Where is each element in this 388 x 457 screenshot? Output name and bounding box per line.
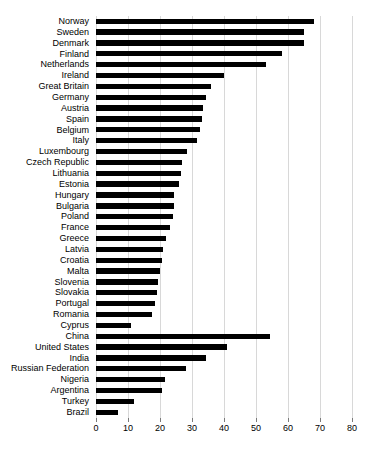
category-label-row: Poland bbox=[0, 211, 93, 222]
category-label-row: Slovakia bbox=[0, 287, 93, 298]
category-label-row: Cyprus bbox=[0, 320, 93, 331]
category-label-row: Italy bbox=[0, 135, 93, 146]
category-label-row: Romania bbox=[0, 309, 93, 320]
bar bbox=[96, 225, 170, 230]
x-tick-label: 40 bbox=[219, 423, 229, 433]
category-label: Finland bbox=[59, 49, 89, 60]
bar-row bbox=[96, 201, 352, 212]
bar bbox=[96, 258, 162, 263]
gridline-80 bbox=[352, 16, 353, 418]
category-label: Lithuania bbox=[52, 168, 89, 179]
category-label-row: Latvia bbox=[0, 244, 93, 255]
bar-chart: NorwaySwedenDenmarkFinlandNetherlandsIre… bbox=[0, 0, 388, 457]
category-label: Germany bbox=[52, 92, 89, 103]
category-label-row: Argentina bbox=[0, 385, 93, 396]
x-tick-10 bbox=[128, 418, 129, 422]
category-label-row: France bbox=[0, 222, 93, 233]
category-label: Portugal bbox=[55, 298, 89, 309]
bar bbox=[96, 279, 158, 284]
bar-row bbox=[96, 59, 352, 70]
x-tick-label: 20 bbox=[155, 423, 165, 433]
category-label-row: Denmark bbox=[0, 38, 93, 49]
bar-row bbox=[96, 385, 352, 396]
x-tick-label: 70 bbox=[315, 423, 325, 433]
bar-row bbox=[96, 38, 352, 49]
bar-row bbox=[96, 396, 352, 407]
bar bbox=[96, 62, 266, 67]
bar bbox=[96, 105, 203, 110]
category-label: Greece bbox=[59, 233, 89, 244]
bar bbox=[96, 236, 166, 241]
bar-row bbox=[96, 125, 352, 136]
category-label-row: China bbox=[0, 331, 93, 342]
category-label-row: Nigeria bbox=[0, 374, 93, 385]
bar bbox=[96, 29, 304, 34]
x-tick-20 bbox=[160, 418, 161, 422]
category-label-row: Hungary bbox=[0, 190, 93, 201]
category-label-row: Sweden bbox=[0, 27, 93, 38]
category-label: Ireland bbox=[61, 70, 89, 81]
bar bbox=[96, 268, 160, 273]
x-tick-30 bbox=[192, 418, 193, 422]
category-label: Slovenia bbox=[54, 277, 89, 288]
bar bbox=[96, 127, 200, 132]
bar-row bbox=[96, 157, 352, 168]
category-label-row: Russian Federation bbox=[0, 364, 93, 375]
bar bbox=[96, 334, 270, 339]
bar-row bbox=[96, 233, 352, 244]
category-label-row: United States bbox=[0, 342, 93, 353]
x-tick-label: 30 bbox=[187, 423, 197, 433]
bar-row bbox=[96, 298, 352, 309]
bar-row bbox=[96, 190, 352, 201]
bar bbox=[96, 181, 179, 186]
category-label-row: Turkey bbox=[0, 396, 93, 407]
category-label: Romania bbox=[53, 309, 89, 320]
category-label-row: Lithuania bbox=[0, 168, 93, 179]
bar bbox=[96, 388, 162, 393]
category-label-row: Greece bbox=[0, 233, 93, 244]
bar-row bbox=[96, 222, 352, 233]
bar bbox=[96, 355, 206, 360]
category-label-row: Malta bbox=[0, 266, 93, 277]
bar bbox=[96, 247, 163, 252]
category-label: Great Britain bbox=[38, 81, 89, 92]
category-label: Turkey bbox=[62, 396, 89, 407]
bar bbox=[96, 40, 304, 45]
category-label-row: Croatia bbox=[0, 255, 93, 266]
bar-row bbox=[96, 27, 352, 38]
bar-row bbox=[96, 331, 352, 342]
category-label: Austria bbox=[61, 103, 89, 114]
bar bbox=[96, 399, 134, 404]
bar bbox=[96, 138, 197, 143]
x-tick-label: 50 bbox=[251, 423, 261, 433]
category-label: Norway bbox=[58, 16, 89, 27]
category-label: Spain bbox=[66, 114, 89, 125]
category-label-row: Austria bbox=[0, 103, 93, 114]
plot-area bbox=[96, 16, 352, 418]
bar bbox=[96, 366, 186, 371]
bar bbox=[96, 84, 211, 89]
x-tick-label: 60 bbox=[283, 423, 293, 433]
category-label: Hungary bbox=[55, 190, 89, 201]
category-label: Netherlands bbox=[40, 59, 89, 70]
category-label-row: Great Britain bbox=[0, 81, 93, 92]
category-label: Croatia bbox=[60, 255, 89, 266]
category-label: Cyprus bbox=[60, 320, 89, 331]
bar-row bbox=[96, 211, 352, 222]
category-label-row: Belgium bbox=[0, 125, 93, 136]
bar-row bbox=[96, 135, 352, 146]
category-label-row: Finland bbox=[0, 49, 93, 60]
bar-row bbox=[96, 81, 352, 92]
category-label-row: Czech Republic bbox=[0, 157, 93, 168]
bar bbox=[96, 214, 173, 219]
category-label: Italy bbox=[72, 135, 89, 146]
bar bbox=[96, 312, 152, 317]
category-label-row: Germany bbox=[0, 92, 93, 103]
bar-row bbox=[96, 70, 352, 81]
category-label: Slovakia bbox=[55, 287, 89, 298]
category-label: Russian Federation bbox=[11, 363, 89, 374]
category-label: Nigeria bbox=[60, 374, 89, 385]
category-label-row: Slovenia bbox=[0, 277, 93, 288]
bar bbox=[96, 95, 206, 100]
bar bbox=[96, 171, 181, 176]
